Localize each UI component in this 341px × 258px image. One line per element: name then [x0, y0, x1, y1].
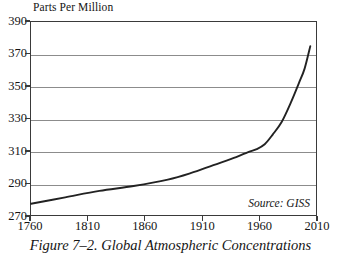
- y-tick-mark-350: [25, 85, 30, 86]
- y-tick-mark-310: [25, 150, 30, 151]
- y-tick-mark-330: [25, 118, 30, 119]
- y-tick-mark-370: [25, 53, 30, 54]
- y-tick-label-330: 330: [0, 112, 27, 124]
- x-tick-mark-1860: [144, 216, 145, 221]
- x-tick-label-1860: 1860: [122, 219, 168, 233]
- figure-caption: Figure 7–2. Global Atmospheric Concentra…: [0, 235, 341, 255]
- figure-container: Parts Per Million Source: GISS 270290310…: [0, 0, 341, 258]
- y-tick-label-370: 370: [0, 47, 27, 59]
- y-tick-mark-390: [25, 20, 30, 21]
- y-tick-label-290: 290: [0, 177, 27, 189]
- x-tick-mark-1910: [202, 216, 203, 221]
- x-tick-label-1960: 1960: [237, 219, 283, 233]
- series-line-0: [31, 46, 310, 204]
- y-tick-mark-290: [25, 183, 30, 184]
- x-tick-mark-1810: [87, 216, 88, 221]
- x-tick-label-2010: 2010: [294, 219, 340, 233]
- x-tick-label-1910: 1910: [179, 219, 225, 233]
- chart-axis-unit-title: Parts Per Million: [33, 1, 113, 14]
- x-tick-mark-2010: [316, 216, 317, 221]
- source-annotation: Source: GISS: [248, 197, 310, 210]
- plot-area: Source: GISS: [30, 21, 317, 216]
- x-tick-mark-1760: [29, 216, 30, 221]
- data-series-svg: [31, 22, 316, 215]
- x-tick-label-1810: 1810: [64, 219, 110, 233]
- y-tick-label-390: 390: [0, 15, 27, 27]
- x-tick-mark-1960: [259, 216, 260, 221]
- y-tick-label-310: 310: [0, 145, 27, 157]
- x-tick-label-1760: 1760: [7, 219, 53, 233]
- y-tick-label-350: 350: [0, 80, 27, 92]
